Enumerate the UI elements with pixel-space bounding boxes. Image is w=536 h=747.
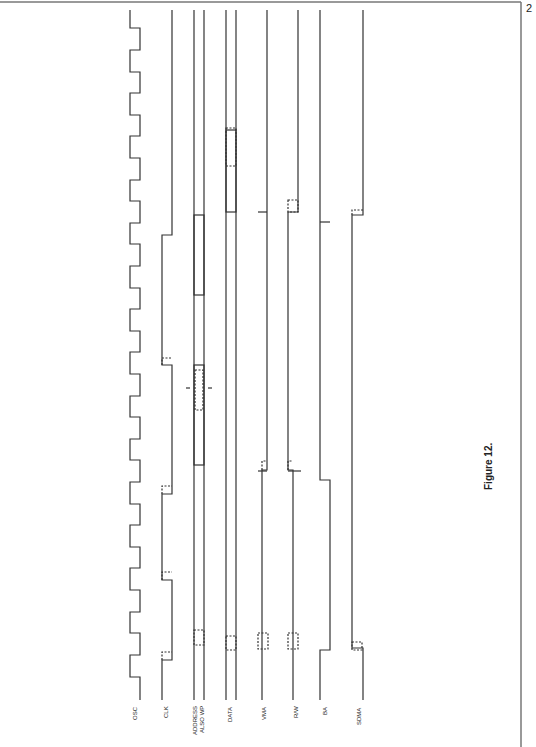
label-rw: R/W [293,706,299,718]
osc-waveform [130,10,140,700]
address-valid-1 [194,215,204,295]
label-address-wp: ALSO WP [199,706,205,733]
data-valid [226,130,236,212]
vma-waveform [262,10,267,700]
label-ba: BA [322,707,328,715]
clk-waveform [162,10,172,700]
rw-transition [288,200,298,212]
label-clk: CLK [163,706,169,718]
vma-transition [262,461,267,470]
clk-transition [162,572,172,580]
rw-waveform [288,10,298,700]
sdma-transition-box [352,642,362,650]
clk-transition [162,358,172,365]
ba-waveform [320,10,330,700]
timing-diagram: 2 OSC CLK ADDRESS ALSO WP DATA VMA R/W B… [0,0,536,747]
label-vma: VMA [261,707,267,720]
label-osc: OSC [132,706,138,720]
address-hatch [195,370,203,410]
clk-transition [162,652,172,660]
clk-transition [162,486,172,494]
sdma-transition [352,210,363,215]
page-number: 2 [526,2,532,14]
address-transition [194,630,204,645]
vma-transition-box [258,633,268,649]
label-data: DATA [227,707,233,722]
label-address: ADDRESS [192,706,198,735]
label-sdma: SDMA [356,708,362,725]
rw-transition [288,461,293,470]
sdma-waveform [352,10,363,700]
data-transition [226,636,236,650]
data-hatch [226,128,236,166]
figure-caption: Figure 12. [483,443,494,490]
